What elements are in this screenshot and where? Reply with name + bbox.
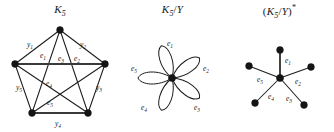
panel-quotient: K5/Y e1 [120,0,225,132]
quotient-label-e1: e1 [167,39,173,49]
dual-vertex-e3-tip [301,102,308,109]
quotient-loop-e5 [156,76,178,112]
panel-k5: K5 y1 y2 y3 y4 y5 [0,0,120,132]
k5-vertex-bottom-right [85,110,92,117]
dual-vertex-e4-tip [252,100,259,107]
dual-vertex-e5-tip [246,63,253,70]
k5-vertex-top [57,27,64,34]
k5-label-e2: e2 [74,54,80,64]
dual-spoke-e5 [249,66,280,78]
k5-label-e3: e3 [58,54,64,64]
dual-label-e1: e1 [285,56,291,66]
k5-vertex-bottom-left [29,110,36,117]
dual-label-e5: e5 [257,75,263,85]
quotient-label-e4: e4 [141,103,147,113]
quotient-graph-svg: e1 e2 e3 e4 e5 [120,0,225,132]
dual-graph-svg: e1 e2 e3 e4 e5 [225,0,334,132]
quotient-label-e5: e5 [131,64,137,74]
figure-root: K5 y1 y2 y3 y4 y5 [0,0,334,132]
dual-label-e3: e3 [286,94,292,104]
k5-vertex-left [12,61,19,68]
k5-edge-e2 [60,30,88,113]
k5-vertex-right [102,61,109,68]
k5-label-y3: y3 [95,83,102,93]
k5-label-e1: e1 [40,51,46,61]
k5-edge-y1 [15,30,60,64]
k5-label-y5: y5 [15,83,22,93]
dual-vertex-e1-tip [277,47,284,54]
k5-label-e4: e4 [46,79,52,89]
quotient-label-e2: e2 [203,64,209,74]
k5-label-y4: y4 [54,119,61,129]
k5-label-y1: y1 [26,40,33,50]
k5-label-y2: y2 [79,40,86,50]
quotient-vertex-center [168,74,175,81]
dual-label-e2: e2 [295,77,301,87]
k5-edge-e5 [32,64,105,113]
quotient-label-e3: e3 [194,103,200,113]
dual-label-e4: e4 [268,92,274,102]
dual-vertex-e2-tip [308,64,315,71]
quotient-loop-e2 [156,44,178,80]
panel-dual: (K5/Y)* e1 e2 e3 e4 e5 [225,0,334,132]
k5-graph-svg: y1 y2 y3 y4 y5 e1 e2 e3 e4 e5 [0,0,120,132]
dual-vertex-center [276,74,283,81]
